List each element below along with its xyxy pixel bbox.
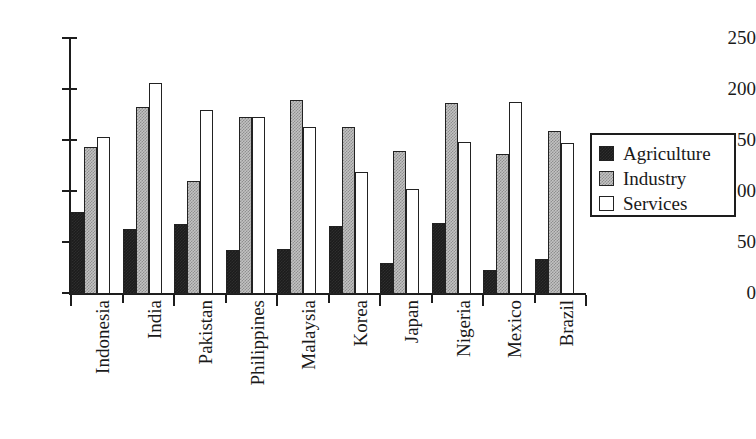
bar-industry	[393, 151, 406, 294]
bar-industry	[548, 131, 561, 294]
x-axis-category-label: Pakistan	[196, 300, 215, 364]
x-axis-tick	[122, 295, 124, 303]
x-axis-category-label: Mexico	[505, 300, 524, 358]
bar-group	[329, 38, 381, 294]
bar-industry	[239, 117, 252, 294]
legend-label: Agriculture	[623, 144, 711, 163]
bar-services	[303, 127, 316, 294]
bar-agriculture	[71, 212, 84, 294]
legend-swatch-services	[599, 196, 614, 211]
x-axis-category-label: Philippines	[248, 300, 267, 386]
bar-services	[252, 117, 265, 294]
bar-services	[355, 172, 368, 294]
x-axis-tick	[328, 295, 330, 303]
x-axis-category-label: Malaysia	[299, 300, 318, 370]
legend-item-industry: Industry	[599, 166, 734, 191]
x-axis-category-label: Indonesia	[93, 300, 112, 374]
bar-services	[561, 143, 574, 294]
bar-group	[174, 38, 226, 294]
x-axis-category-label: Nigeria	[454, 300, 473, 357]
bar-industry	[136, 107, 149, 294]
bar-group	[432, 38, 484, 294]
x-axis-category-label: Brazil	[557, 300, 576, 346]
legend-swatch-agriculture	[599, 146, 614, 161]
legend-label: Industry	[623, 169, 686, 188]
legend-item-agriculture: Agriculture	[599, 141, 734, 166]
bar-services	[509, 102, 522, 294]
x-axis-tick	[173, 295, 175, 306]
x-axis-tick	[585, 295, 587, 306]
y-axis-tick-label: 200	[704, 79, 756, 98]
bar-industry	[445, 103, 458, 294]
bar-group	[277, 38, 329, 294]
bar-services	[458, 142, 471, 294]
x-axis-tick	[225, 295, 227, 303]
legend-label: Services	[623, 194, 687, 213]
bar-group	[123, 38, 175, 294]
x-axis-tick	[534, 295, 536, 303]
y-axis-tick-label: 50	[704, 232, 756, 251]
bar-group	[483, 38, 535, 294]
bar-services	[406, 189, 419, 294]
x-axis-tick	[276, 295, 278, 306]
bar-group	[380, 38, 432, 294]
chart-title-cropped	[0, 0, 756, 3]
x-axis-category-label: Japan	[402, 300, 421, 343]
bar-group	[226, 38, 278, 294]
legend-swatch-industry	[599, 171, 614, 186]
bar-agriculture	[174, 224, 187, 294]
y-axis-tick-label: 0	[704, 283, 756, 302]
bar-agriculture	[123, 229, 136, 294]
bar-agriculture	[329, 226, 342, 294]
bar-agriculture	[380, 263, 393, 294]
bar-agriculture	[535, 259, 548, 294]
y-axis-tick-label: 250	[704, 28, 756, 47]
bar-industry	[496, 154, 509, 294]
bar-industry	[342, 127, 355, 294]
x-axis-category-label: India	[145, 300, 164, 339]
bar-industry	[187, 181, 200, 294]
bar-agriculture	[483, 270, 496, 294]
bar-group	[535, 38, 587, 294]
x-axis-tick	[379, 295, 381, 306]
chart-legend: AgricultureIndustryServices	[590, 133, 736, 217]
bar-services	[149, 83, 162, 294]
bar-services	[200, 110, 213, 294]
bar-agriculture	[226, 250, 239, 294]
x-axis-tick	[70, 295, 72, 306]
bar-group	[71, 38, 123, 294]
bar-industry	[290, 100, 303, 294]
x-axis-tick	[431, 295, 433, 303]
plot-area	[71, 38, 586, 294]
bar-industry	[84, 147, 97, 294]
x-axis-tick	[482, 295, 484, 306]
bar-agriculture	[432, 223, 445, 294]
x-axis-category-label: Korea	[351, 300, 370, 346]
bar-agriculture	[277, 249, 290, 294]
bar-services	[97, 137, 110, 294]
legend-item-services: Services	[599, 191, 734, 216]
bar-chart: 250200150100500 IndonesiaIndiaPakistanPh…	[0, 0, 756, 439]
